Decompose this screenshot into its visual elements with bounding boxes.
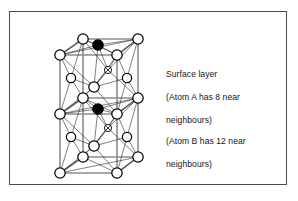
open-circle-atom [122,132,131,141]
fcc-lattice-diagram [50,32,160,192]
open-circle-atom [89,82,99,92]
caption-line-atomb-1: (Atom B has 12 near [166,136,246,147]
caption-line-atomb-2: neighbours) [166,159,246,170]
open-circle-atom [133,34,143,44]
lattice-svg [50,32,160,192]
open-circle-atom [112,50,122,60]
figure-frame: Surface layer (Atom A has 8 near neighbo… [9,11,287,185]
open-circle-atom [112,109,122,119]
open-circle-atom [89,141,99,151]
open-circle-atom [133,152,143,162]
figure-page: Surface layer (Atom A has 8 near neighbo… [0,0,298,201]
open-circle-atom [133,93,143,103]
open-circle-atom [78,152,88,162]
filled-circle-atom [93,40,103,50]
bond-line [108,128,138,157]
open-circle-atom [55,50,65,60]
open-circle-atom [112,168,122,178]
open-circle-atom [66,132,75,141]
bond-line [71,39,83,78]
caption-atom-b: (Atom B has 12 near neighbours) [166,125,246,182]
bond-line [60,114,94,146]
open-circle-atom [66,73,75,82]
open-circle-atom [122,73,131,82]
open-circle-atom [55,168,65,178]
open-circle-atom [78,93,88,103]
filled-circle-atom [93,104,103,114]
bond-line [108,70,138,98]
bond-line [60,45,98,55]
open-circle-atom [78,34,88,44]
caption-line-surface-1: Surface layer [166,69,240,80]
caption-line-surface-2: (Atom A has 8 near [166,92,240,103]
bond-line [60,55,94,87]
open-circle-atom [55,109,65,119]
bond-line [94,45,98,87]
